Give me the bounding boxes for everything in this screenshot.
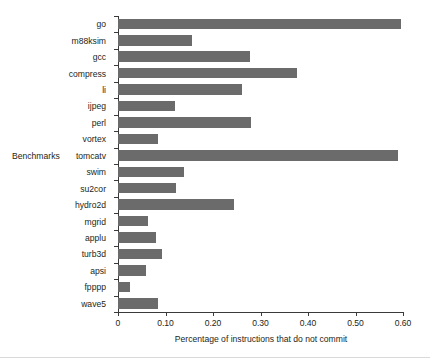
y-axis-label-swim: swim [86, 167, 106, 177]
bar-applu [118, 232, 156, 243]
y-axis-label-wave5: wave5 [81, 299, 106, 309]
x-axis-tick [213, 312, 214, 316]
bar-apsi [118, 265, 146, 276]
bar-row [118, 98, 403, 114]
y-axis-label-applu: applu [85, 233, 106, 243]
y-axis-tick [114, 246, 118, 247]
y-axis-label-fpppp: fpppp [84, 282, 106, 292]
x-axis-tick-label-0.50: 0.50 [347, 318, 364, 328]
x-axis-tick [118, 312, 119, 316]
x-axis-tick-label-0.10: 0.10 [157, 318, 174, 328]
y-axis-tick [114, 263, 118, 264]
bar-perl [118, 117, 251, 128]
bar-row [118, 197, 403, 213]
bar-row [118, 82, 403, 98]
y-axis-tick [114, 279, 118, 280]
bar-chart-figure: gom88ksimgcccompressliijpegperlvortextom… [0, 0, 430, 364]
y-axis-title: Benchmarks [12, 151, 60, 161]
x-axis-tick [166, 312, 167, 316]
y-axis-tick [114, 197, 118, 198]
y-axis-tick [114, 16, 118, 17]
bar-row [118, 246, 403, 262]
x-axis-tick-label-0.40: 0.40 [300, 318, 317, 328]
bar-swim [118, 167, 184, 178]
y-axis-tick [114, 115, 118, 116]
bar-row [118, 263, 403, 279]
y-axis-tick [114, 131, 118, 132]
x-axis-tick [308, 312, 309, 316]
y-axis-label-compress: compress [69, 69, 106, 79]
y-axis-label-go: go [96, 19, 106, 29]
bar-m88ksim [118, 35, 192, 46]
bar-fpppp [118, 282, 130, 293]
bar-row [118, 180, 403, 196]
x-axis-tick [261, 312, 262, 316]
y-axis-tick [114, 49, 118, 50]
y-axis-tick [114, 82, 118, 83]
x-axis-tick-label-0: 0 [116, 318, 121, 328]
bar-compress [118, 68, 297, 79]
bar-row [118, 279, 403, 295]
x-axis-tick-label-0.60: 0.60 [395, 318, 412, 328]
plot-area [118, 16, 403, 312]
y-axis-tick [114, 180, 118, 181]
bar-row [118, 164, 403, 180]
bar-row [118, 148, 403, 164]
bar-go [118, 19, 401, 30]
bar-su2cor [118, 183, 176, 194]
bar-wave5 [118, 298, 158, 309]
y-axis-tick [114, 213, 118, 214]
y-axis-tick-labels: gom88ksimgcccompressliijpegperlvortextom… [0, 16, 113, 312]
bar-li [118, 84, 242, 95]
y-axis-label-mgrid: mgrid [85, 217, 107, 227]
y-axis-label-perl: perl [92, 118, 106, 128]
y-axis-label-turb3d: turb3d [82, 249, 106, 259]
x-axis-tick [403, 312, 404, 316]
y-axis-tick [114, 164, 118, 165]
bar-row [118, 213, 403, 229]
x-axis-tick-label-0.20: 0.20 [205, 318, 222, 328]
y-axis-tick [114, 230, 118, 231]
y-axis-tick [114, 296, 118, 297]
bar-row [118, 230, 403, 246]
bar-row [118, 49, 403, 65]
y-axis-label-m88ksim: m88ksim [72, 36, 106, 46]
bar-row [118, 16, 403, 32]
y-axis-label-apsi: apsi [90, 266, 106, 276]
bar-row [118, 32, 403, 48]
bar-hydro2d [118, 199, 234, 210]
x-axis-title: Percentage of instructions that do not c… [118, 334, 404, 344]
y-axis-tick [114, 98, 118, 99]
bar-turb3d [118, 249, 162, 260]
y-axis-label-tomcatv: tomcatv [76, 151, 106, 161]
y-axis-label-li: li [102, 85, 106, 95]
y-axis-label-vortex: vortex [83, 134, 106, 144]
bar-row [118, 295, 403, 311]
bar-mgrid [118, 216, 148, 227]
bar-ijpeg [118, 101, 175, 112]
y-axis-tick [114, 148, 118, 149]
bar-row [118, 115, 403, 131]
page-divider-rule [0, 357, 430, 358]
y-axis-tick [114, 32, 118, 33]
x-axis-tick [356, 312, 357, 316]
bar-row [118, 131, 403, 147]
bar-tomcatv [118, 150, 398, 161]
bar-vortex [118, 134, 158, 145]
bar-row [118, 65, 403, 81]
y-axis-tick [114, 65, 118, 66]
y-axis-label-hydro2d: hydro2d [75, 200, 106, 210]
y-axis-label-ijpeg: ijpeg [88, 101, 106, 111]
x-axis-tick-label-0.30: 0.30 [252, 318, 269, 328]
y-axis-label-su2cor: su2cor [80, 184, 106, 194]
bar-series [118, 16, 403, 312]
y-axis-label-gcc: gcc [93, 52, 106, 62]
bar-gcc [118, 51, 250, 62]
